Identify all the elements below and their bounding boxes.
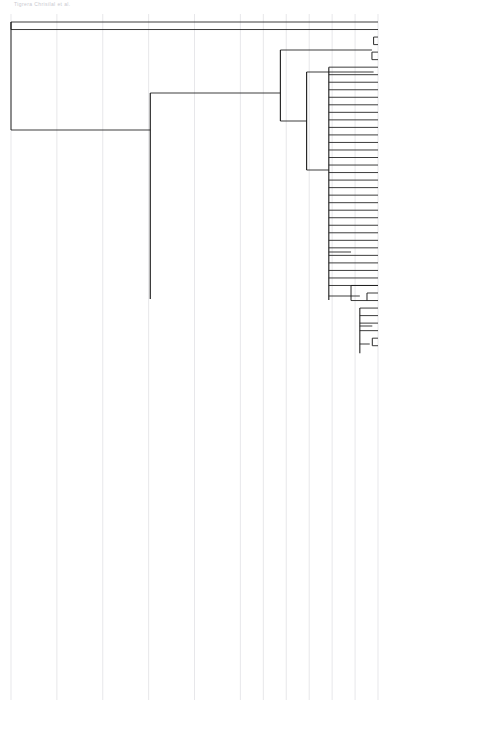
- gridlines-group: [11, 14, 378, 700]
- figure-canvas: Tigrera Chrisilal et al.: [0, 0, 501, 732]
- phylogenetic-tree: [0, 0, 501, 732]
